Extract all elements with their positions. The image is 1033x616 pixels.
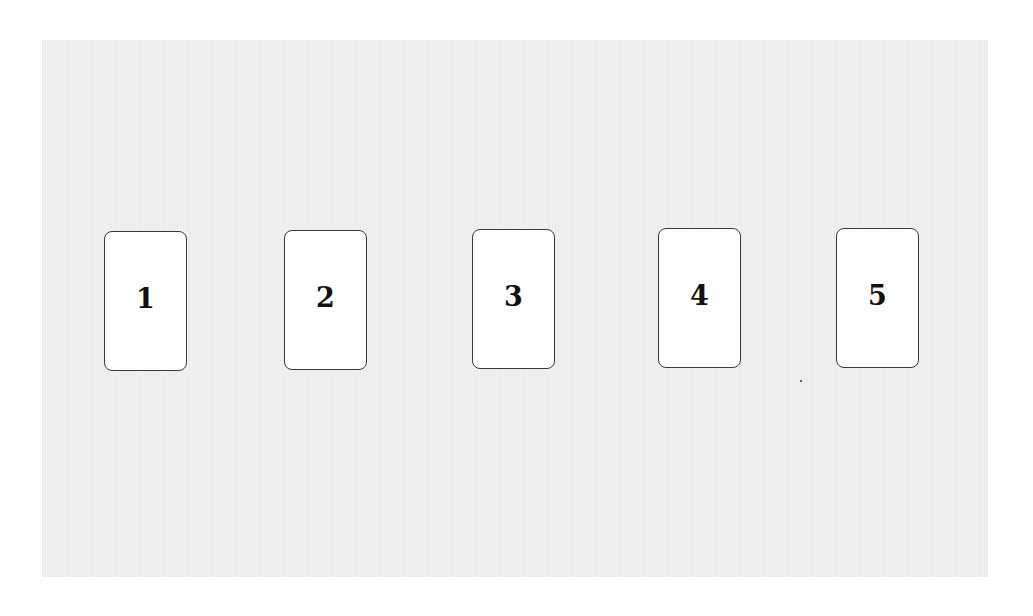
- card-number: 3: [504, 281, 523, 312]
- card-5[interactable]: 5: [836, 228, 919, 368]
- card-number: 4: [690, 280, 709, 311]
- card-number: 2: [316, 282, 335, 313]
- card-number: 1: [136, 283, 155, 314]
- card-3[interactable]: 3: [472, 229, 555, 369]
- card-1[interactable]: 1: [104, 231, 187, 371]
- board-speck: [800, 380, 802, 382]
- card-4[interactable]: 4: [658, 228, 741, 368]
- card-number: 5: [868, 280, 887, 311]
- card-2[interactable]: 2: [284, 230, 367, 370]
